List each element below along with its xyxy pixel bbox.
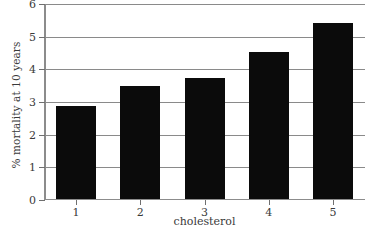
y-axis-tick-label: 2 [18,130,36,141]
y-axis-tick [39,167,45,168]
x-axis-tick [140,200,141,205]
y-axis-tick-label: 6 [18,0,36,10]
gridline [46,4,365,5]
bar [313,23,353,199]
bar [120,86,160,199]
bar [185,78,225,199]
y-axis-tick-label: 5 [18,32,36,43]
y-axis-tick [39,200,45,201]
y-axis-tick-label: 3 [18,97,36,108]
x-axis-title: cholesterol [44,215,365,228]
y-axis-tick-label: 1 [18,162,36,173]
y-axis-tick [39,69,45,70]
y-axis-tick [39,4,45,5]
bar [249,52,289,199]
plot-area: 0123456 12345 [44,4,365,200]
y-axis-tick [39,37,45,38]
y-axis-tick-label: 4 [18,64,36,75]
y-axis-tick [39,135,45,136]
bar-chart: % mortality at 10 years 0123456 12345 ch… [0,0,371,232]
y-axis-tick [39,102,45,103]
x-axis-tick [333,200,334,205]
y-axis-tick-label: 0 [18,195,36,206]
bar [56,106,96,199]
x-axis-tick [76,200,77,205]
x-axis-tick [205,200,206,205]
x-axis-tick [269,200,270,205]
